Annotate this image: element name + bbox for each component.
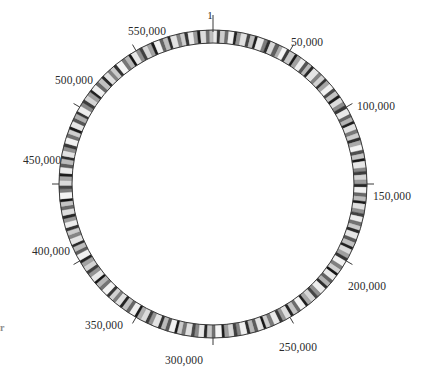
genome-band (212, 325, 215, 338)
tick-mark (133, 317, 137, 323)
tick-mark-layer (52, 15, 374, 345)
tick-mark (290, 317, 294, 323)
genome-band (200, 30, 206, 43)
genome-band (206, 30, 210, 43)
genome-band (207, 325, 212, 338)
genome-band (354, 175, 367, 181)
tick-label-350000: 350,000 (85, 320, 123, 332)
tick-mark (74, 261, 80, 265)
tick-label-550000: 550,000 (128, 26, 166, 38)
tick-label-150000: 150,000 (373, 191, 411, 203)
tick-mark (346, 104, 352, 108)
tick-mark (74, 104, 80, 108)
circular-genome-figure: 150,000100,000150,000200,000250,000300,0… (0, 0, 424, 372)
genome-band (59, 192, 72, 199)
genome-band (354, 184, 367, 187)
genome-band (354, 180, 367, 184)
ring-inner-outline (72, 43, 354, 325)
tick-label-450000: 450,000 (23, 155, 61, 167)
tick-label-100000: 100,000 (357, 101, 395, 113)
tick-label-300000: 300,000 (165, 355, 203, 367)
tick-label-1: 1 (207, 10, 213, 21)
tick-label-500000: 500,000 (55, 75, 93, 87)
genome-band-layer (59, 30, 367, 338)
genome-ring-plot (0, 0, 424, 372)
genome-band (59, 185, 72, 188)
genome-band (59, 180, 72, 185)
genome-band (354, 187, 367, 193)
tick-label-50000: 50,000 (291, 37, 323, 49)
genome-band (215, 325, 222, 338)
genome-band (210, 30, 213, 43)
caption-fragment: r (0, 322, 16, 333)
tick-mark (346, 261, 352, 265)
tick-mark (133, 45, 137, 51)
tick-label-200000: 200,000 (348, 281, 386, 293)
tick-label-400000: 400,000 (32, 246, 70, 258)
genome-band (213, 30, 217, 43)
tick-label-250000: 250,000 (279, 342, 317, 354)
genome-band (59, 188, 72, 192)
